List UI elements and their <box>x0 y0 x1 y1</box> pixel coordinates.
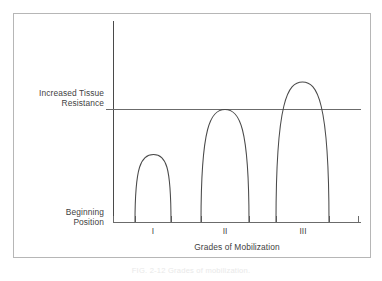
mobilization-grade-curves <box>14 14 372 259</box>
x-axis-tick-label-i: I <box>138 226 168 236</box>
x-axis-tick-label-iii: III <box>288 226 318 236</box>
x-axis-title: Grades of Mobilization <box>113 242 361 252</box>
plot-area: Increased Tissue Resistance Beginning Po… <box>14 14 370 257</box>
figure-caption: FIG. 2-12 Grades of mobilization. <box>0 266 382 275</box>
curve-grade-iii <box>276 82 329 222</box>
figure-frame: Increased Tissue Resistance Beginning Po… <box>13 13 371 258</box>
x-axis-tick-label-ii: II <box>210 226 240 236</box>
curve-grade-ii <box>201 110 249 223</box>
curve-grade-i <box>135 155 171 223</box>
